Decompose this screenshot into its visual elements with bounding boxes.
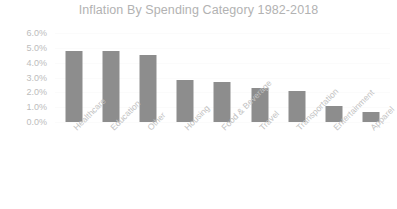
bar[interactable] [102, 51, 119, 122]
x-axis-label-slot: Education [92, 124, 129, 204]
x-axis-label-slot: Apparel [353, 124, 390, 204]
y-axis-tick-label: 2.0% [26, 88, 47, 97]
y-axis-tick-label: 5.0% [26, 43, 47, 52]
y-axis-tick-label: 0.0% [26, 118, 47, 127]
y-axis-tick-label: 1.0% [26, 103, 47, 112]
x-axis-label-slot: Travel [241, 124, 278, 204]
y-axis: 6.0%5.0%4.0%3.0%2.0%1.0%0.0% [0, 33, 50, 122]
bar-chart: Inflation By Spending Category 1982-2018… [0, 0, 397, 209]
bar[interactable] [65, 51, 82, 122]
x-axis-label-slot: Other [129, 124, 166, 204]
x-axis-labels: HealthcareEducationOtherHousingFood & Be… [55, 124, 390, 204]
y-axis-tick-label: 6.0% [26, 29, 47, 38]
bar[interactable] [140, 55, 157, 122]
x-axis-label-slot: Housing [167, 124, 204, 204]
x-axis-label-slot: Transportation [278, 124, 315, 204]
x-axis-label-slot: Entertainment [316, 124, 353, 204]
y-axis-tick-label: 4.0% [26, 58, 47, 67]
y-axis-tick-label: 3.0% [26, 73, 47, 82]
x-axis-label-slot: Food & Beverage [204, 124, 241, 204]
chart-title: Inflation By Spending Category 1982-2018 [0, 3, 397, 17]
x-axis-label-slot: Healthcare [55, 124, 92, 204]
plot-area [55, 33, 390, 122]
